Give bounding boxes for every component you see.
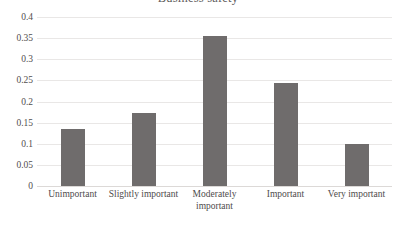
y-axis-tick-label: 0.2 [21,97,33,107]
x-axis-category-label: Important [250,189,321,201]
bar [132,113,156,186]
bar-chart: Business safety 0.40.350.30.250.20.150.1… [0,0,396,229]
bar [274,83,298,186]
plot-area [37,17,392,186]
y-axis-tick-label: 0.35 [16,33,33,43]
bar [61,129,85,186]
bar [203,36,227,186]
y-axis-tick-labels: 0.40.350.30.250.20.150.10.050 [0,17,33,186]
y-axis-tick-label: 0.1 [21,139,33,149]
y-axis-tick-label: 0.25 [16,75,33,85]
bar [345,144,369,186]
y-axis-tick-label: 0.05 [16,160,33,170]
x-axis-category-label: Very important [321,189,392,201]
y-axis-tick-label: 0.15 [16,118,33,128]
x-axis-category-label: Slightly important [108,189,179,201]
y-axis-tick-label: 0.4 [21,12,33,22]
x-axis-category-labels: UnimportantSlightly importantModerately … [37,189,392,227]
chart-title: Business safety [0,0,396,6]
x-axis-category-label: Unimportant [37,189,108,201]
y-axis-tick-label: 0 [28,181,33,191]
x-axis-category-label: Moderately important [179,189,250,212]
y-axis-tick-label: 0.3 [21,54,33,64]
bar-series [37,17,392,186]
axis-baseline [37,186,392,187]
